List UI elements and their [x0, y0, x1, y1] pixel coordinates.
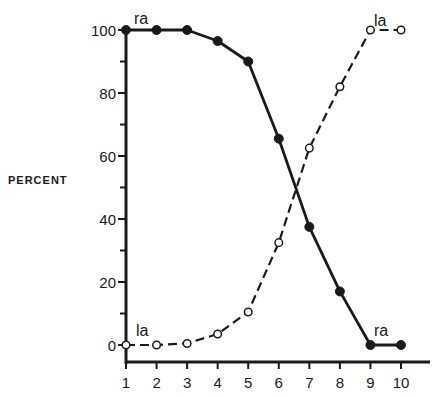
data-point-la [153, 341, 161, 349]
x-tick-label: 9 [366, 374, 374, 391]
data-point-ra [397, 341, 406, 350]
y-tick-label: 20 [99, 274, 116, 291]
data-point-ra [152, 26, 161, 35]
data-point-ra [366, 341, 375, 350]
data-point-la [183, 340, 191, 348]
data-point-la [214, 330, 222, 338]
data-point-la [336, 83, 344, 91]
data-point-la [275, 239, 283, 247]
y-tick-label: 40 [99, 211, 116, 228]
series-label-ra: ra [374, 322, 388, 339]
data-point-ra [335, 287, 344, 296]
data-point-ra [274, 134, 283, 143]
series-label-la: la [136, 322, 149, 339]
x-tick-label: 5 [244, 374, 252, 391]
data-point-la [122, 341, 130, 349]
x-tick-label: 8 [336, 374, 344, 391]
y-tick-label: 60 [99, 148, 116, 165]
y-tick-label: 0 [108, 337, 116, 354]
x-tick-label: 3 [183, 374, 191, 391]
series-line-la [126, 30, 401, 345]
y-tick-label: 80 [99, 85, 116, 102]
y-axis-label: PERCENT [8, 174, 68, 186]
x-tick-label: 6 [275, 374, 283, 391]
y-tick-label: 100 [91, 22, 116, 39]
data-point-ra [305, 222, 314, 231]
data-point-la [397, 26, 405, 34]
series-group [122, 26, 406, 350]
x-tick-label: 10 [393, 374, 410, 391]
x-tick-label: 4 [213, 374, 221, 391]
data-point-la [244, 308, 252, 316]
data-point-la [306, 144, 314, 152]
data-point-ra [213, 37, 222, 46]
series-label-la: la [374, 12, 387, 29]
data-point-ra [183, 26, 192, 35]
labels: PERCENTralalara [8, 10, 388, 339]
series-label-ra: ra [134, 10, 148, 27]
data-point-ra [244, 57, 253, 66]
line-chart: 02040608010012345678910 PERCENTralalara [0, 0, 442, 398]
data-point-ra [122, 26, 131, 35]
x-tick-label: 1 [122, 374, 130, 391]
x-tick-label: 2 [152, 374, 160, 391]
x-tick-label: 7 [305, 374, 313, 391]
series-line-ra [126, 30, 401, 345]
